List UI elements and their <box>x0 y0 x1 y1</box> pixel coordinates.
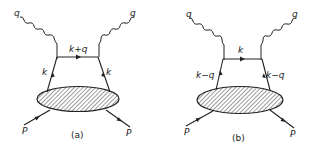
label-photon-in: q <box>186 9 192 19</box>
photon-in-line <box>189 18 224 60</box>
label-proton-in: P <box>184 127 190 137</box>
label-proton-in: P <box>22 126 28 136</box>
label-proton-out: P <box>126 128 132 138</box>
label-photon-out: q <box>292 9 298 19</box>
arrow-icon <box>196 118 202 123</box>
label-top-propagator: k <box>238 45 244 55</box>
arrow-icon <box>240 57 245 62</box>
caption-a: (a) <box>71 130 84 140</box>
label-photon-out: q <box>130 8 136 18</box>
label-proton-out: P <box>290 129 296 139</box>
arrow-icon <box>76 55 81 60</box>
label-left-leg: k <box>42 67 48 77</box>
photon-in-line <box>20 17 57 59</box>
caption-b: (b) <box>232 133 245 143</box>
photon-out-line <box>99 17 134 57</box>
label-left-leg: k−q <box>196 70 215 80</box>
hadron-blob <box>37 87 119 112</box>
photon-out-line <box>261 18 296 60</box>
panel-b: q q k k−q k−q P P (b) <box>184 9 298 143</box>
panel-a: q q k+q k k P P (a) <box>14 8 136 140</box>
arrow-icon <box>35 116 41 121</box>
label-top-propagator: k+q <box>69 44 88 54</box>
label-right-leg: k−q <box>266 70 285 80</box>
label-right-leg: k <box>106 67 112 77</box>
feynman-diagrams: q q k+q k k P P (a) q q k k−q k−q P P (b… <box>0 0 319 150</box>
hadron-blob <box>197 87 283 114</box>
label-photon-in: q <box>14 8 20 18</box>
